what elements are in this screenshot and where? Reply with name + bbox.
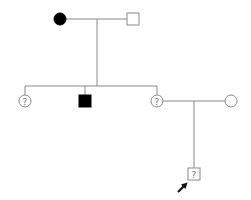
affected-mother	[54, 13, 66, 25]
affected-son	[79, 95, 91, 107]
daughter-unknown-status: ?	[19, 95, 31, 107]
pedigree-diagram: ? ? ?	[0, 0, 251, 200]
proband-son-unknown-status: ?	[188, 168, 200, 180]
svg-text:?: ?	[192, 170, 197, 180]
proband-arrow-icon	[178, 183, 188, 193]
daughter-unknown-status-parent: ?	[151, 95, 163, 107]
svg-text:?: ?	[23, 97, 28, 107]
unaffected-father	[127, 13, 139, 25]
spouse-unaffected-female	[225, 95, 237, 107]
svg-text:?: ?	[155, 97, 160, 107]
